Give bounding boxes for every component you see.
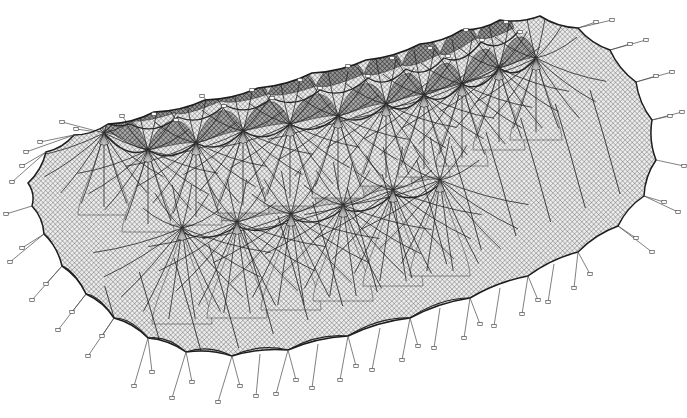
ground-anchor [222, 104, 226, 107]
ground-anchor [200, 94, 204, 97]
ground-anchor [20, 164, 24, 167]
ground-anchor [390, 56, 394, 59]
cable-net-roof-drawing: Tensile Cable-Net Membrane Roof Structur… [0, 0, 687, 418]
ground-anchor [610, 18, 614, 21]
ground-anchor [446, 54, 450, 57]
ground-anchor [464, 28, 468, 31]
ground-anchor [152, 112, 156, 115]
ground-anchor [8, 260, 12, 263]
ground-anchor [400, 358, 404, 361]
ground-anchor [170, 396, 174, 399]
ground-anchor [338, 378, 342, 381]
drawing-canvas: Tensile Cable-Net Membrane Roof Structur… [0, 0, 687, 418]
ground-anchor [10, 180, 14, 183]
ground-anchor [70, 310, 74, 313]
ground-anchor [366, 74, 370, 77]
ground-anchor [634, 236, 638, 239]
ground-anchor [462, 336, 466, 339]
ground-anchor [682, 164, 686, 167]
ground-anchor [346, 64, 350, 67]
ground-anchor [238, 384, 242, 387]
ground-anchor [100, 334, 104, 337]
ground-anchor [60, 120, 64, 123]
ground-anchor [680, 110, 684, 113]
ground-anchor [254, 394, 258, 397]
ground-anchor [310, 386, 314, 389]
ground-anchor [74, 127, 78, 130]
ground-anchor [250, 88, 254, 91]
ground-anchor [594, 20, 598, 23]
ground-anchor [628, 42, 632, 45]
ground-anchor [38, 140, 42, 143]
ground-anchor [432, 346, 436, 349]
ground-anchor [536, 298, 540, 301]
ground-anchor [150, 370, 154, 373]
ground-anchor [480, 38, 484, 41]
ground-anchor [668, 114, 672, 117]
ground-anchor [318, 86, 322, 89]
ground-anchor [30, 298, 34, 301]
ground-anchor [190, 380, 194, 383]
ground-anchor [428, 46, 432, 49]
ground-anchor [24, 150, 28, 153]
ground-anchor [86, 354, 90, 357]
ground-anchor [44, 282, 48, 285]
ground-anchor [546, 300, 550, 303]
ground-anchor [20, 246, 24, 249]
ground-anchor [174, 118, 178, 121]
ground-anchor [294, 378, 298, 381]
ground-anchor [518, 30, 522, 33]
ground-anchor [274, 392, 278, 395]
ground-anchor [644, 38, 648, 41]
ground-anchor [120, 114, 124, 117]
ground-anchor [492, 324, 496, 327]
ground-anchor [270, 96, 274, 99]
ground-anchor [654, 74, 658, 77]
ground-anchor [520, 312, 524, 315]
ground-anchor [572, 286, 576, 289]
ground-anchor [370, 368, 374, 371]
ground-anchor [504, 20, 508, 23]
ground-anchor [478, 322, 482, 325]
ground-anchor [56, 328, 60, 331]
ground-anchor [416, 344, 420, 347]
ground-anchor [216, 400, 220, 403]
ground-anchor [650, 250, 654, 253]
ground-anchor [132, 384, 136, 387]
ground-anchor [4, 212, 8, 215]
ground-anchor [662, 200, 666, 203]
ground-anchor [298, 78, 302, 81]
ground-anchor [676, 210, 680, 213]
ground-anchor [670, 70, 674, 73]
ground-anchor [588, 272, 592, 275]
ground-anchor [354, 364, 358, 367]
